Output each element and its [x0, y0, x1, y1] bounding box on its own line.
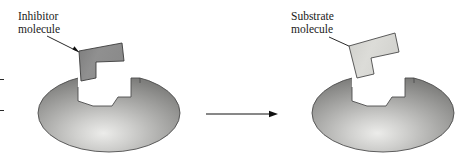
enzyme-body-right [312, 74, 454, 152]
inhibitor-label-line2: molecule [18, 23, 60, 35]
inhibitor-leader-arrow [47, 36, 79, 52]
enzyme-body-left [38, 74, 180, 152]
reaction-arrow [206, 111, 278, 117]
substrate-label-line2: molecule [291, 23, 333, 35]
substrate-molecule [349, 33, 399, 78]
substrate-label-line1: Substrate [291, 10, 334, 22]
margin-tick-lower [0, 110, 4, 111]
inhibitor-panel: Inhibitor molecule [18, 10, 180, 152]
enzyme-ellipse-left [38, 74, 180, 152]
inhibitor-label-line1: Inhibitor [18, 10, 58, 22]
enzyme-diagram: Inhibitor molecule [0, 0, 470, 157]
reaction-arrow-head [269, 111, 278, 117]
enzyme-ellipse-right [312, 74, 454, 152]
diagram-canvas: Inhibitor molecule [0, 0, 470, 157]
inhibitor-molecule [79, 43, 124, 81]
substrate-panel: Substrate molecule [291, 10, 454, 152]
margin-tick-upper [0, 79, 4, 80]
